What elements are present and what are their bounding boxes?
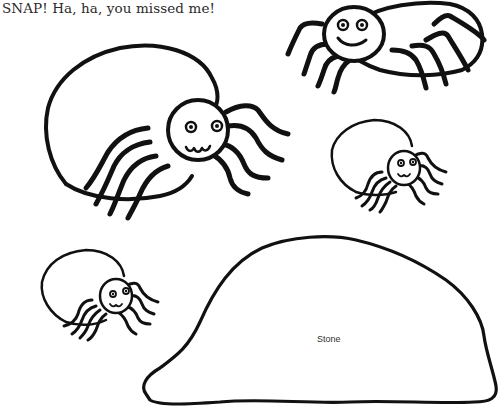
small-spider-left (42, 250, 158, 340)
stone-label: Stone (317, 334, 341, 344)
small-spider-right (332, 120, 446, 212)
illustration (0, 0, 504, 420)
large-spider (46, 46, 288, 218)
top-right-spider (288, 3, 484, 92)
stone-shape (144, 237, 497, 404)
